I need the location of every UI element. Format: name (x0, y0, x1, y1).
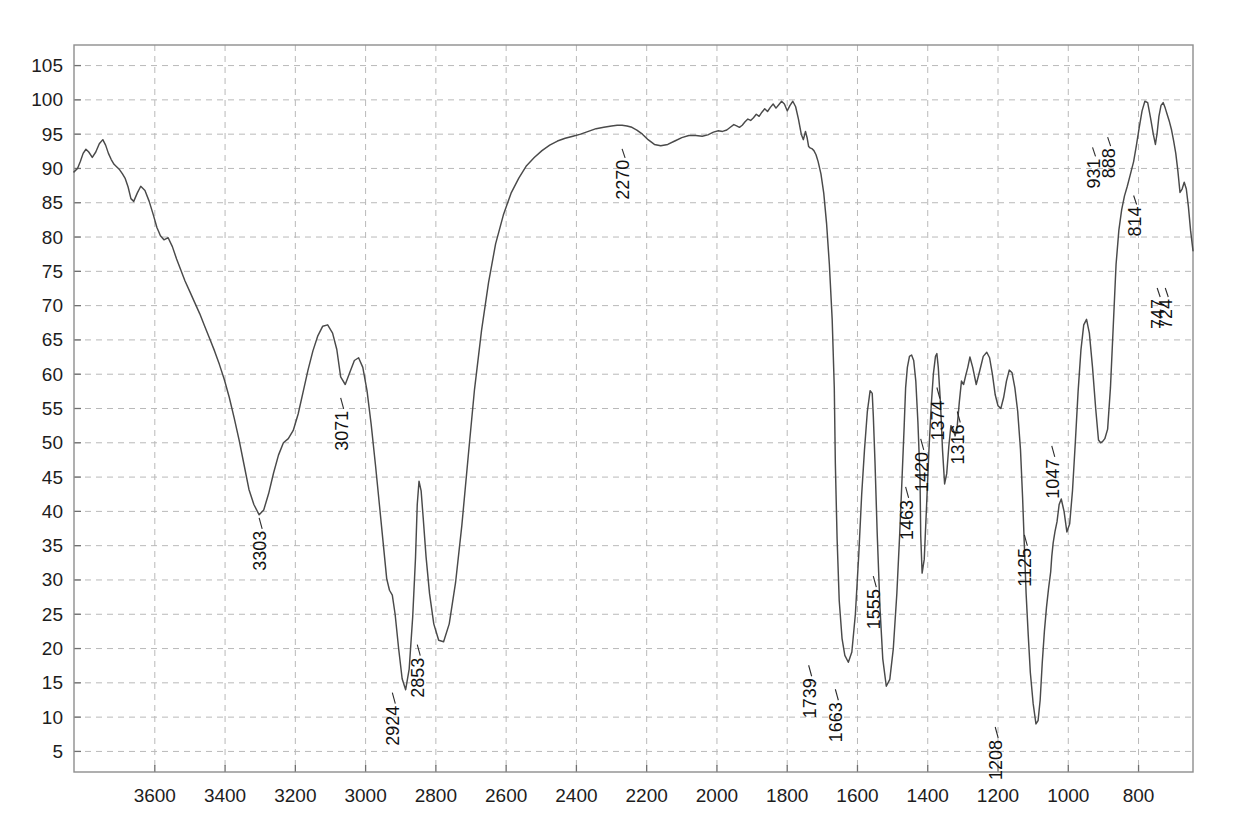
ytick-label: 75 (42, 261, 63, 282)
xtick-label: 800 (1123, 785, 1155, 806)
ir-spectrum-figure: 5101520253035404550556065707580859095100… (0, 0, 1238, 839)
peak-annotation: 1463 (897, 487, 917, 540)
peak-label: 1047 (1043, 459, 1063, 499)
peak-annotation: 747 (1148, 288, 1168, 329)
annotation-leader (392, 693, 395, 704)
peak-label: 2270 (613, 160, 633, 200)
ytick-label: 50 (42, 432, 63, 453)
transmittance-trace (74, 101, 1193, 724)
peak-annotations: 3303307129242853227017391663155514631420… (250, 137, 1176, 780)
annotation-leader (921, 439, 924, 450)
ytick-label: 85 (42, 192, 63, 213)
peak-annotation: 1374 (928, 387, 948, 440)
peak-annotation: 1125 (1015, 535, 1035, 587)
ytick-label: 10 (42, 707, 63, 728)
peak-annotation: 1208 (986, 727, 1006, 780)
xtick-label: 2600 (485, 785, 527, 806)
peak-label: 1463 (897, 500, 917, 540)
peak-label: 1420 (912, 452, 932, 492)
xtick-label: 3200 (274, 785, 316, 806)
peak-annotation: 2270 (613, 149, 633, 200)
xtick-label: 2000 (696, 785, 738, 806)
peak-annotation: 888 (1099, 137, 1119, 178)
peak-annotation: 1663 (826, 689, 846, 742)
peak-label: 1208 (986, 740, 1006, 780)
xtick-label: 2200 (626, 785, 668, 806)
ytick-label: 95 (42, 124, 63, 145)
xtick-label: 3600 (134, 785, 176, 806)
peak-label: 1125 (1015, 548, 1035, 587)
ytick-label: 20 (42, 638, 63, 659)
peak-label: 3303 (250, 531, 270, 571)
peak-label: 1555 (864, 589, 884, 629)
xtick-label: 1800 (766, 785, 808, 806)
annotation-leader (1052, 446, 1055, 457)
gridlines (74, 45, 1193, 772)
peak-label: 814 (1125, 207, 1145, 237)
peak-label: 1663 (826, 702, 846, 742)
annotation-leader (622, 149, 625, 158)
annotation-leader (1165, 288, 1168, 297)
ytick-label: 90 (42, 158, 63, 179)
peak-label: 2853 (408, 658, 428, 698)
annotation-leader (417, 645, 420, 656)
ytick-label: 15 (42, 672, 63, 693)
peak-annotation: 3303 (250, 518, 270, 571)
ytick-label: 60 (42, 364, 63, 385)
x-axis-tick-labels: 3600340032003000280026002400220020001800… (134, 785, 1155, 806)
ytick-label: 65 (42, 329, 63, 350)
annotation-leader (1093, 147, 1096, 156)
peak-annotation: 2924 (383, 693, 403, 746)
ytick-label: 30 (42, 569, 63, 590)
peak-label: 1739 (800, 678, 820, 718)
xtick-label: 1400 (907, 785, 949, 806)
spectrum-chart: 5101520253035404550556065707580859095100… (0, 0, 1238, 839)
ytick-label: 40 (42, 501, 63, 522)
annotation-leader (906, 487, 909, 498)
peak-annotation: 3071 (332, 398, 352, 451)
annotation-leader (835, 689, 838, 700)
y-axis-tick-labels: 5101520253035404550556065707580859095100… (31, 55, 63, 762)
annotation-leader (1157, 288, 1160, 297)
peak-label: 1316 (948, 425, 968, 465)
xtick-label: 2800 (415, 785, 457, 806)
spectrum-trace-group (74, 101, 1193, 724)
peak-annotation: 1555 (864, 576, 884, 629)
xtick-label: 3000 (344, 785, 386, 806)
annotation-leader (259, 518, 262, 529)
ytick-label: 5 (52, 741, 63, 762)
annotation-leader (341, 398, 344, 409)
ytick-label: 45 (42, 467, 63, 488)
peak-label: 2924 (383, 706, 403, 746)
ytick-label: 100 (31, 89, 63, 110)
xtick-label: 1000 (1047, 785, 1089, 806)
ytick-label: 55 (42, 398, 63, 419)
xtick-label: 1600 (836, 785, 878, 806)
ytick-label: 35 (42, 535, 63, 556)
ytick-label: 70 (42, 295, 63, 316)
peak-label: 747 (1148, 299, 1168, 329)
annotation-leader (1108, 137, 1111, 146)
peak-label: 3071 (332, 411, 352, 451)
peak-label: 1374 (928, 401, 948, 441)
annotation-leader (873, 576, 876, 587)
peak-annotation: 814 (1125, 195, 1145, 236)
xtick-label: 2400 (555, 785, 597, 806)
xtick-label: 1200 (977, 785, 1019, 806)
peak-annotation: 2853 (408, 645, 428, 698)
ytick-label: 105 (31, 55, 63, 76)
ytick-label: 80 (42, 227, 63, 248)
peak-label: 888 (1099, 148, 1119, 178)
xtick-label: 3400 (204, 785, 246, 806)
peak-annotation: 1739 (800, 665, 820, 718)
annotation-leader (809, 665, 812, 676)
peak-annotation: 1047 (1043, 446, 1063, 499)
ytick-label: 25 (42, 604, 63, 625)
